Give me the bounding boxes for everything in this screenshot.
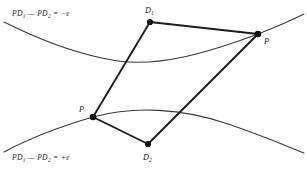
- point-label-p-right-base: P: [263, 37, 269, 46]
- point-label-d2: D2: [142, 153, 152, 163]
- equation-upper-middle: — PD: [26, 9, 48, 18]
- point-label-d1: D1: [144, 6, 154, 16]
- vertex-p-left: [90, 114, 97, 121]
- hyperbolic-position-diagram: PD1 — PD2 = −e PD1 — PD2 = +e D1 P P D2: [0, 0, 307, 175]
- point-label-p-right: P: [263, 37, 269, 46]
- point-label-d2-sub: 2: [149, 157, 152, 163]
- equation-upper-prefix: PD: [11, 9, 23, 18]
- upper-hyperbola-branch: [4, 14, 304, 62]
- point-label-p-left-base: P: [78, 105, 84, 114]
- point-label-d1-sub: 1: [151, 10, 154, 16]
- equation-lower-suffix: = +e: [51, 153, 70, 162]
- vertex-p-right: [255, 31, 262, 38]
- equation-label-lower: PD1 — PD2 = +e: [11, 153, 70, 163]
- vertex-d1: [147, 19, 153, 25]
- lower-hyperbola-branch: [4, 110, 304, 153]
- equation-lower-middle: — PD: [26, 153, 48, 162]
- vertex-d2: [145, 141, 151, 147]
- equation-label-upper: PD1 — PD2 = −e: [11, 9, 70, 19]
- equation-upper-suffix: = −e: [51, 9, 70, 18]
- equation-lower-prefix: PD: [11, 153, 23, 162]
- point-label-p-left: P: [78, 105, 84, 114]
